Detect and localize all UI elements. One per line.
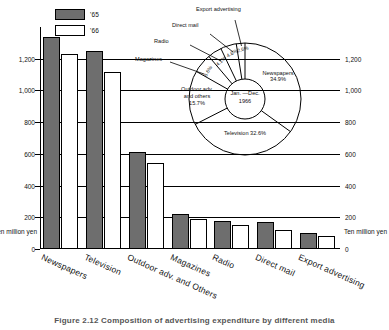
x-axis-category-labels: NewspapersTelevisionOutdoor adv. and Oth… [40,250,340,320]
y-tick-label-right-800: 800 [345,119,356,126]
y-tick-label-right-400: 400 [345,182,356,189]
bar-outdoor-adv-and-others-65 [129,152,146,249]
figure-caption: Figure 2.12 Composition of advertising e… [0,316,389,325]
pie-label-newspapers-pct: 34.9% [270,76,286,82]
y-tick-label-left-800: 800 [24,119,35,126]
x-category-label-export-advertising: Export advertising [297,252,367,290]
bar-television-66 [104,72,121,249]
bar-group [86,27,121,249]
pie-label-outdoor-l1: Outdoor adv. [181,86,213,92]
pie-callout-magazines: Magazines [135,56,162,62]
y-tick-label-left-600: 600 [24,150,35,157]
pie-label-outdoor-pct: 15.7% [189,100,205,106]
bar-television-65 [86,51,103,249]
pie-label-outdoor: Outdoor adv. and others 15.7% [176,86,218,107]
bar-export-advertising-66 [318,236,335,249]
bar-magazines-65 [172,214,189,249]
pie-callout-export-advertising: Export advertising [196,6,241,12]
y-axis-left [40,27,41,249]
pie-center-period: Jan. —Dec. [230,90,259,96]
x-category-label-newspapers: Newspapers [40,252,89,281]
bar-export-advertising-65 [300,233,317,249]
bar-radio-66 [232,225,249,249]
y-tick-label-left-400: 400 [24,182,35,189]
bar-outdoor-adv-and-others-66 [147,163,164,249]
bar-newspapers-66 [61,54,78,249]
x-category-label-television: Television [83,252,123,277]
legend-swatch-65 [55,9,85,20]
legend-item-65: '65 [55,8,99,21]
pie-callout-radio: Radio [154,38,169,44]
bar-newspapers-65 [43,37,60,249]
y-tick-label-right-1200: 1,200 [345,55,361,62]
figure-root: '65 '66 002002004004006006008008001,0001… [0,0,389,330]
pie-label-newspapers: Newspapers 34.9% [256,70,300,82]
bar-group [43,27,78,249]
y-axis-unit-left: Ten million yen [0,228,37,235]
y-axis-unit-right: Ten million yen [344,228,387,235]
bar-radio-65 [214,221,231,249]
bar-direct-mail-65 [257,222,274,249]
legend-label-65: '65 [90,11,99,18]
bar-magazines-66 [190,219,207,249]
pie-callout-direct-mail: Direct mail [172,22,198,28]
pie-center-year: 1966 [239,98,251,104]
pie-label-outdoor-l2: and others [184,93,210,99]
x-axis [40,248,340,249]
y-tick-label-right-1000: 1,000 [345,87,361,94]
y-tick-label-left-200: 200 [24,214,35,221]
pie-label-television: Television 32.6% [212,130,278,136]
x-category-label-radio: Radio [211,252,236,271]
pie-inset: Export advertising Direct mail Radio Mag… [178,40,312,158]
y-tick-label-right-600: 600 [345,150,356,157]
bar-direct-mail-66 [275,230,292,249]
y-tick-label-right-200: 200 [345,214,356,221]
pie-center-label: Jan. —Dec. 1966 [219,89,271,106]
x-category-label-direct-mail: Direct mail [254,252,297,278]
y-tick-label-left-1200: 1,200 [19,55,35,62]
y-tick-label-right-0: 0 [345,246,349,253]
y-tick-label-left-1000: 1,000 [19,87,35,94]
